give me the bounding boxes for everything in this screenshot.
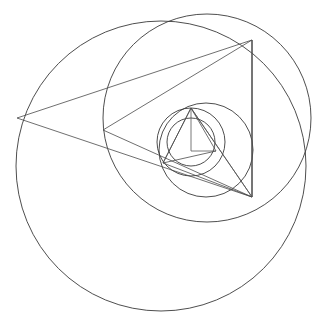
geometric-figure-canvas bbox=[0, 0, 318, 332]
geometric-figure-svg bbox=[0, 0, 318, 332]
